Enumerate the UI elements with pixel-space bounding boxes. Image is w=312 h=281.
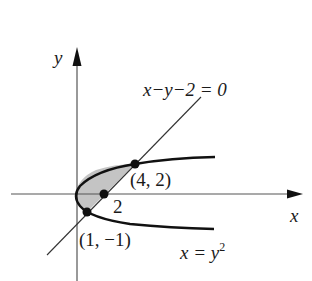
point-label-2: 2	[113, 196, 123, 217]
x-axis-arrow-icon	[287, 190, 303, 199]
point-label-4-2: (4, 2)	[130, 169, 171, 191]
curve-equation-label: x = y2	[179, 240, 225, 263]
x-axis-label: x	[289, 205, 299, 226]
curve-equation-text: x = y	[179, 242, 220, 263]
diagram-canvas: y x x−y−2 = 0 (4, 2) 2 (1, −1) x = y2	[0, 0, 312, 281]
curve-exponent: 2	[219, 240, 225, 254]
y-axis-arrow-icon	[73, 47, 82, 66]
point-4-2	[131, 160, 140, 169]
y-axis-label: y	[52, 47, 63, 68]
point-2-0	[100, 190, 109, 199]
point-1-neg1	[83, 208, 92, 217]
line-equation-label: x−y−2 = 0	[142, 79, 227, 100]
point-label-1-neg1: (1, −1)	[79, 229, 131, 251]
